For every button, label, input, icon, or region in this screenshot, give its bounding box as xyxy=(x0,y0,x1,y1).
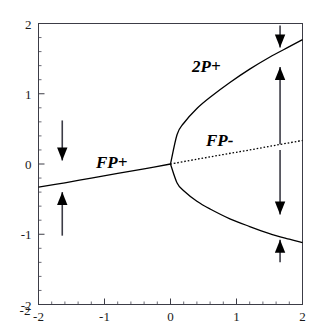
y-tick-label: 1 xyxy=(25,87,32,102)
label-2p-plus: 2P+ xyxy=(191,57,221,76)
bifurcation-diagram-figure: -2-1012210-1-2 FP+ FP- 2P+ -2 xyxy=(0,0,320,335)
y-tick-label: 0 xyxy=(25,157,32,172)
x-tick-label: -1 xyxy=(99,309,110,324)
axis-corner-label: -2 xyxy=(20,303,31,318)
label-fp-plus: FP+ xyxy=(95,153,127,172)
figure-background xyxy=(0,0,320,335)
y-tick-label: 2 xyxy=(25,17,32,32)
x-tick-label: -2 xyxy=(33,309,44,324)
label-fp-minus: FP- xyxy=(205,131,234,150)
x-tick-label: 0 xyxy=(167,309,174,324)
x-tick-label: 1 xyxy=(233,309,240,324)
bifurcation-plot: -2-1012210-1-2 FP+ FP- 2P+ -2 xyxy=(0,0,320,335)
x-tick-label: 2 xyxy=(299,309,306,324)
y-tick-label: -1 xyxy=(21,227,32,242)
